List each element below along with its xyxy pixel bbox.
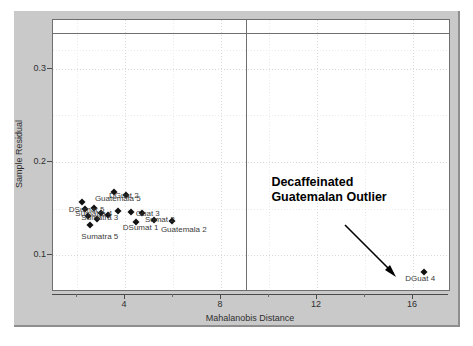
x-axis-tick-mark-minor bbox=[268, 294, 269, 297]
data-point bbox=[87, 221, 94, 228]
grid-line-vertical bbox=[125, 20, 126, 290]
x-axis-tick-label: 4 bbox=[121, 299, 126, 309]
annotation-line-2: Guatemalan Outlier bbox=[271, 190, 386, 205]
grid-line-vertical-minor bbox=[173, 20, 174, 290]
x-axis-tick-mark-minor bbox=[76, 294, 77, 297]
point-label: Sumatra 5 bbox=[81, 232, 118, 241]
residual-limit-line bbox=[53, 33, 449, 34]
point-label: DGuat 4 bbox=[405, 274, 435, 283]
y-axis-title: Sample Residual bbox=[14, 120, 24, 188]
y-axis-tick-label: 0.1 bbox=[20, 249, 46, 259]
distance-limit-line bbox=[246, 20, 247, 290]
y-axis-tick-label: 0.3 bbox=[20, 63, 46, 73]
grid-line-vertical bbox=[317, 20, 318, 290]
grid-line-horizontal bbox=[53, 69, 449, 70]
point-label: Guatemala 2 bbox=[161, 225, 207, 234]
grid-line-horizontal-minor bbox=[53, 50, 449, 51]
grid-line-vertical bbox=[413, 20, 414, 290]
outlier-annotation: Decaffeinated Guatemalan Outlier bbox=[271, 175, 386, 205]
x-axis-tick-mark bbox=[124, 294, 125, 299]
plot-area: Guatemala 5DGuat 2DSumat 5Sumatra 4Sumat… bbox=[52, 19, 450, 291]
point-label: DGuat 2 bbox=[109, 191, 139, 200]
grid-line-vertical-minor bbox=[77, 20, 78, 290]
y-axis-tick-label: 0.2 bbox=[20, 156, 46, 166]
scatter-plot-figure: Sample Residual 0.10.20.3 481216 Mahalan… bbox=[0, 0, 473, 346]
point-label: DSumat 1 bbox=[123, 223, 159, 232]
x-axis-tick-label: 16 bbox=[407, 299, 417, 309]
annotation-line-1: Decaffeinated bbox=[271, 175, 386, 190]
x-axis-tick-label: 12 bbox=[311, 299, 321, 309]
x-axis-title: Mahalanobis Distance bbox=[206, 313, 295, 323]
x-axis-tick-mark-minor bbox=[364, 294, 365, 297]
annotation-arrow-icon bbox=[53, 20, 449, 290]
grid-line-vertical bbox=[221, 20, 222, 290]
point-label: Sumatra 3 bbox=[81, 213, 118, 222]
x-axis-tick-mark bbox=[220, 294, 221, 299]
grid-line-horizontal-minor bbox=[53, 115, 449, 116]
x-axis-tick-mark bbox=[412, 294, 413, 299]
x-axis-tick-mark bbox=[316, 294, 317, 299]
x-axis-tick-mark-minor bbox=[172, 294, 173, 297]
x-axis-line bbox=[52, 294, 448, 295]
grid-line-vertical-minor bbox=[269, 20, 270, 290]
grid-line-horizontal bbox=[53, 162, 449, 163]
grid-line-horizontal bbox=[53, 255, 449, 256]
grid-line-horizontal-minor bbox=[53, 209, 449, 210]
x-axis-tick-label: 8 bbox=[217, 299, 222, 309]
grid-line-vertical-minor bbox=[365, 20, 366, 290]
